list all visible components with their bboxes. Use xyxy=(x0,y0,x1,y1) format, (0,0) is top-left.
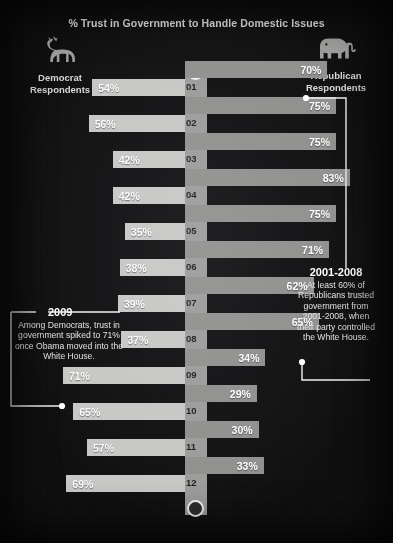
bar-democrat: 39% xyxy=(118,295,185,312)
bar-democrat: 42% xyxy=(113,151,185,168)
bar-value-democrat: 38% xyxy=(126,262,147,274)
annotation-democrat: 2009 Among Democrats, trust in governmen… xyxy=(14,306,124,362)
chart-title: % Trust in Government to Handle Domestic… xyxy=(0,17,393,29)
bar-republican: 33% xyxy=(185,457,264,474)
bar-value-democrat: 57% xyxy=(93,442,114,454)
annotation-democrat-body: Among Democrats, trust in government spi… xyxy=(14,320,124,362)
bar-republican: 62% xyxy=(185,277,314,294)
bar-value-republican: 29% xyxy=(230,388,251,400)
year-tick-label: 03 xyxy=(186,153,208,164)
bar-republican: 75% xyxy=(185,97,336,114)
infographic-canvas: % Trust in Government to Handle Domestic… xyxy=(0,0,393,543)
bar-democrat: 65% xyxy=(73,403,185,420)
bar-value-democrat: 42% xyxy=(119,154,140,166)
bar-value-republican: 33% xyxy=(237,460,258,472)
bar-value-republican: 75% xyxy=(309,100,330,112)
bar-democrat: 42% xyxy=(113,187,185,204)
bar-democrat: 38% xyxy=(120,259,185,276)
bar-democrat: 56% xyxy=(89,115,185,132)
year-tick-label: 11 xyxy=(186,441,208,452)
bar-value-republican: 83% xyxy=(323,172,344,184)
bar-value-republican: 75% xyxy=(309,136,330,148)
annotation-republican-heading: 2001-2008 xyxy=(296,266,376,278)
bar-republican: 34% xyxy=(185,349,265,366)
bar-value-democrat: 56% xyxy=(95,118,116,130)
bar-value-democrat: 71% xyxy=(69,370,90,382)
bar-value-republican: 70% xyxy=(300,64,321,76)
bar-value-democrat: 35% xyxy=(131,226,152,238)
bar-democrat: 71% xyxy=(63,367,185,384)
year-tick-label: 12 xyxy=(186,477,208,488)
bar-value-democrat: 39% xyxy=(124,298,145,310)
year-tick-label: 07 xyxy=(186,297,208,308)
bar-democrat: 57% xyxy=(87,439,185,456)
bar-republican: 75% xyxy=(185,205,336,222)
bar-democrat: 69% xyxy=(66,475,185,492)
bar-democrat: 54% xyxy=(92,79,185,96)
bar-value-republican: 75% xyxy=(309,208,330,220)
bar-republican: 71% xyxy=(185,241,329,258)
bar-value-democrat: 65% xyxy=(79,406,100,418)
year-tick-label: 01 xyxy=(186,81,208,92)
year-tick-label: 10 xyxy=(186,405,208,416)
bar-republican: 75% xyxy=(185,133,336,150)
bar-democrat: 37% xyxy=(121,331,185,348)
year-tick-label: 08 xyxy=(186,333,208,344)
annotation-republican-body: At least 60% of Republicans trusted gove… xyxy=(296,280,376,342)
annotation-republican: 2001-2008 At least 60% of Republicans tr… xyxy=(296,266,376,342)
bar-value-democrat: 69% xyxy=(72,478,93,490)
bar-democrat: 35% xyxy=(125,223,185,240)
bar-value-republican: 34% xyxy=(238,352,259,364)
bar-republican: 83% xyxy=(185,169,350,186)
bar-value-democrat: 42% xyxy=(119,190,140,202)
annotation-democrat-heading: 2009 xyxy=(14,306,124,318)
bar-value-democrat: 54% xyxy=(98,82,119,94)
bar-row: 33%69%12 xyxy=(0,475,393,511)
year-tick-label: 05 xyxy=(186,225,208,236)
year-tick-label: 02 xyxy=(186,117,208,128)
year-tick-label: 09 xyxy=(186,369,208,380)
bar-value-republican: 71% xyxy=(302,244,323,256)
year-tick-label: 04 xyxy=(186,189,208,200)
bar-republican: 70% xyxy=(185,61,327,78)
bar-value-democrat: 37% xyxy=(127,334,148,346)
bar-value-republican: 30% xyxy=(232,424,253,436)
year-tick-label: 06 xyxy=(186,261,208,272)
bar-republican: 29% xyxy=(185,385,257,402)
bar-republican: 30% xyxy=(185,421,259,438)
